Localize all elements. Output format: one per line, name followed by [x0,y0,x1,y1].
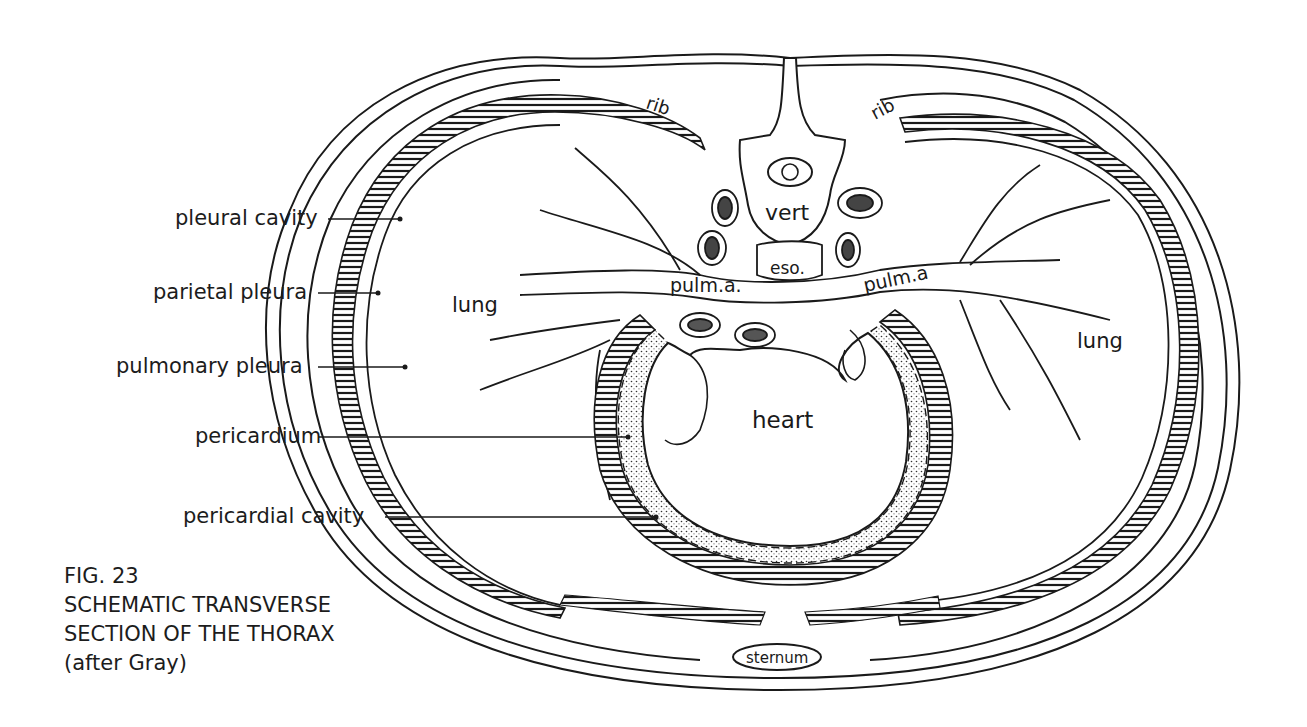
figure-title-line-2: SECTION OF THE THORAX [64,620,335,649]
callout-parietal-pleura: parietal pleura [153,280,307,304]
label-pulm-artery-left: pulm.a. [670,274,742,296]
label-vertebra: vert [765,200,810,225]
label-esophagus: eso. [770,258,805,278]
label-heart: heart [752,407,813,433]
figure-number: FIG. 23 [64,562,335,591]
callout-pericardial-cavity: pericardial cavity [183,504,364,528]
figure-title-line-1: SCHEMATIC TRANSVERSE [64,591,335,620]
label-lung-right: lung [1077,329,1123,353]
label-sternum: sternum [746,649,808,667]
figure-caption: FIG. 23 SCHEMATIC TRANSVERSE SECTION OF … [64,562,335,678]
callout-pleural-cavity: pleural cavity [175,206,318,230]
figure-attribution: (after Gray) [64,649,335,678]
heart-outline [643,333,908,546]
callout-pericardium: pericardium [195,424,321,448]
label-lung-left: lung [452,293,498,317]
callout-pulmonary-pleura: pulmonary pleura [116,354,303,378]
